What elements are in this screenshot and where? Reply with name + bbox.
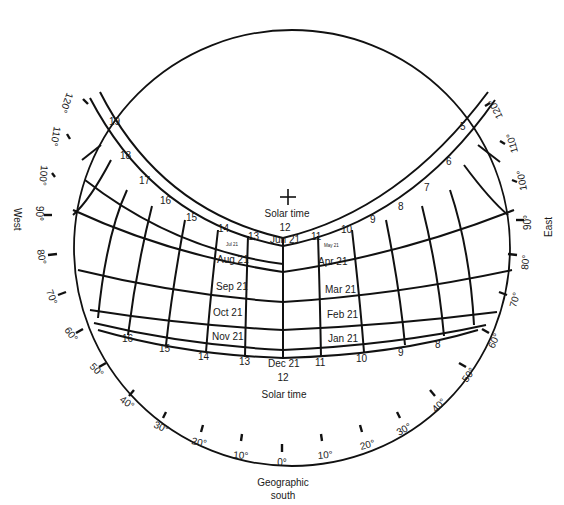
hour-label: 16: [122, 333, 134, 344]
svg-text:80°: 80°: [519, 254, 531, 270]
date-curves: [73, 92, 514, 358]
sun-path-diagram: Solar time 12: [0, 0, 564, 505]
hour-label: 17: [139, 175, 151, 186]
date-label: May 21: [324, 243, 339, 248]
hour-label: 9: [370, 214, 376, 225]
hour-label: 10: [356, 353, 368, 364]
solar-noon-bottom: 12: [277, 372, 289, 383]
date-label: Oct 21: [213, 307, 243, 318]
hour-label: 13: [239, 356, 251, 367]
date-label: Mar 21: [325, 284, 357, 295]
svg-text:100°: 100°: [37, 165, 50, 187]
hour-label: 5: [460, 121, 466, 132]
west-label: West: [12, 208, 23, 231]
solar-noon-top: 12: [279, 222, 291, 233]
date-label: Jul 21: [226, 242, 239, 247]
hour-label: 11: [311, 231, 322, 242]
hour-label: 11: [315, 357, 326, 368]
svg-text:90°: 90°: [522, 215, 533, 230]
jun21-label: Jun 21: [270, 234, 300, 245]
east-label: East: [543, 217, 554, 237]
date-label: Feb 21: [327, 309, 359, 320]
hour-label: 18: [120, 150, 132, 161]
svg-text:70°: 70°: [44, 288, 60, 306]
svg-text:70°: 70°: [507, 291, 522, 308]
hour-label: 15: [159, 343, 171, 354]
svg-text:120°: 120°: [486, 97, 505, 120]
hour-label: 13: [248, 231, 260, 242]
svg-text:110°: 110°: [504, 132, 520, 154]
geographic-south-label-2: south: [271, 490, 295, 501]
hour-label: 9: [398, 347, 404, 358]
hour-label: 19: [109, 116, 121, 127]
hour-label: 8: [435, 339, 441, 350]
hour-label: 7: [424, 182, 430, 193]
hour-label: 14: [218, 223, 230, 234]
azimuth-labels-east: 10° 20° 30° 40° 50° 60° 70° 80° 90° 100°…: [317, 97, 533, 461]
date-label: Aug 21: [217, 254, 249, 265]
zenith-marker: [280, 189, 296, 205]
svg-text:100°: 100°: [515, 169, 529, 191]
svg-text:30°: 30°: [395, 421, 414, 438]
date-label: Nov 21: [212, 331, 244, 342]
solar-time-bottom-caption: Solar time: [261, 389, 306, 400]
svg-text:90°: 90°: [34, 206, 45, 221]
date-label: Jan 21: [328, 333, 358, 344]
svg-text:10°: 10°: [317, 449, 333, 461]
svg-text:80°: 80°: [35, 248, 48, 265]
geographic-south-label: Geographic: [257, 477, 309, 488]
svg-text:20°: 20°: [191, 435, 208, 449]
hour-label: 14: [198, 351, 210, 362]
svg-text:120°: 120°: [58, 91, 75, 114]
solar-time-top-caption: Solar time: [264, 208, 309, 219]
date-label: Apr 21: [318, 256, 348, 267]
date-label: Sep 21: [216, 281, 248, 292]
svg-text:60°: 60°: [486, 331, 502, 349]
dec21-label: Dec 21: [268, 358, 300, 369]
hour-label: 10: [341, 224, 353, 235]
azimuth-label-south: 0°: [277, 457, 287, 468]
hour-label: 8: [398, 201, 404, 212]
svg-text:60°: 60°: [62, 325, 80, 344]
hour-label: 6: [446, 156, 452, 167]
svg-text:40°: 40°: [118, 394, 137, 412]
hour-label: 15: [186, 212, 198, 223]
svg-text:110°: 110°: [49, 126, 63, 148]
svg-text:10°: 10°: [233, 449, 249, 461]
date-labels: Jul 21 Aug 21 Sep 21 Oct 21 Nov 21 May 2…: [212, 242, 359, 344]
hour-label: 16: [160, 195, 172, 206]
svg-text:30°: 30°: [152, 419, 170, 435]
svg-text:40°: 40°: [430, 396, 448, 414]
